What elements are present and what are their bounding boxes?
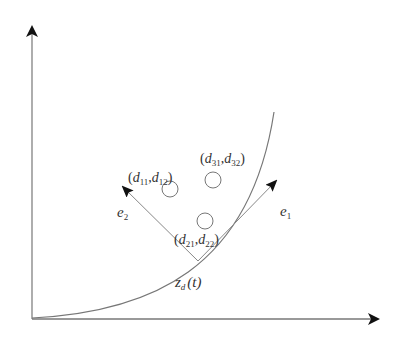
point-circle-2 bbox=[197, 213, 213, 229]
trajectory-curve bbox=[32, 112, 274, 318]
label-zd-t: zd(t) bbox=[174, 274, 202, 292]
label-e1: e1 bbox=[280, 203, 291, 221]
diagram-canvas: (d11,d12) (d31,d32) (d21,d22) e1 e2 zd(t… bbox=[0, 0, 401, 343]
label-d11-d12: (d11,d12) bbox=[128, 170, 173, 187]
e2-vector bbox=[123, 187, 198, 261]
label-e2: e2 bbox=[117, 204, 128, 222]
e1-vector bbox=[198, 181, 276, 261]
point-circle-3 bbox=[205, 172, 221, 188]
label-d31-d32: (d31,d32) bbox=[200, 151, 245, 168]
label-d21-d22: (d21,d22) bbox=[174, 232, 219, 249]
